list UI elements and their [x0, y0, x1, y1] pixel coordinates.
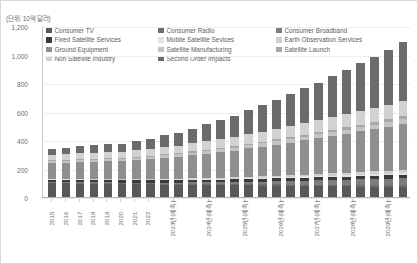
x-axis-tick-label: 2016	[62, 212, 69, 226]
y-axis-tick-label: 800	[0, 81, 28, 88]
stacked-bar[interactable]	[202, 124, 211, 197]
stacked-bar[interactable]	[314, 83, 323, 197]
x-axis-tick-label: 2022	[145, 212, 152, 226]
unit-label: (단위: 10억 달러)	[6, 13, 51, 23]
bar-segment	[188, 143, 197, 151]
stacked-bar[interactable]	[356, 63, 365, 197]
bar-segment	[314, 186, 323, 197]
bar-slot	[368, 26, 382, 197]
x-label-slot: 2019	[100, 199, 114, 261]
bar-segment	[216, 185, 225, 197]
bar-segment	[399, 187, 408, 197]
bar-slot	[115, 26, 129, 197]
x-axis-tick-label: 2015	[48, 212, 55, 226]
stacked-bar[interactable]	[132, 141, 141, 197]
x-label-slot: 2030년(예측)	[406, 199, 418, 261]
bar-segment	[272, 186, 281, 197]
bar-segment	[328, 136, 337, 173]
bar-group	[42, 26, 410, 197]
stacked-bar[interactable]	[188, 129, 197, 197]
stacked-bar[interactable]	[272, 100, 281, 197]
bar-segment	[48, 163, 57, 179]
stacked-bar[interactable]	[146, 139, 155, 197]
stacked-bar[interactable]	[160, 135, 169, 197]
stacked-bar[interactable]	[76, 146, 85, 197]
bar-segment	[399, 42, 408, 100]
bar-segment	[300, 140, 309, 174]
bar-segment	[202, 154, 211, 178]
x-axis-tick	[65, 199, 66, 202]
bar-segment	[258, 105, 267, 131]
bar-slot	[326, 26, 340, 197]
bar-segment	[202, 124, 211, 141]
bar-segment	[76, 162, 85, 179]
x-label-slot: 2027년(예측)	[299, 199, 335, 261]
bar-segment	[132, 184, 141, 197]
bar-segment	[202, 185, 211, 197]
bar-slot	[59, 26, 73, 197]
y-axis-tick-label: 400	[0, 138, 28, 145]
bar-slot	[354, 26, 368, 197]
stacked-bar[interactable]	[384, 50, 393, 197]
bar-slot	[143, 26, 157, 197]
stacked-bar[interactable]	[216, 120, 225, 197]
bar-segment	[342, 114, 351, 127]
stacked-bar[interactable]	[370, 57, 379, 197]
stacked-bar[interactable]	[62, 148, 71, 197]
bar-segment	[104, 144, 113, 152]
x-axis-tick	[79, 199, 80, 202]
bar-slot	[298, 26, 312, 197]
bar-slot	[45, 26, 59, 197]
y-axis-tick-label: 200	[0, 166, 28, 173]
bar-segment	[342, 186, 351, 197]
stacked-bar[interactable]	[230, 116, 239, 197]
bar-segment	[356, 187, 365, 197]
stacked-bar[interactable]	[104, 144, 113, 197]
bar-slot	[73, 26, 87, 197]
x-label-slot: 2025년(예측)	[227, 199, 263, 261]
bar-segment	[146, 149, 155, 156]
bar-slot	[241, 26, 255, 197]
bar-segment	[342, 134, 351, 173]
stacked-bar[interactable]	[342, 70, 351, 197]
stacked-bar[interactable]	[174, 133, 183, 197]
stacked-bar[interactable]	[48, 149, 57, 197]
stacked-bar[interactable]	[244, 110, 253, 197]
bar-slot	[185, 26, 199, 197]
stacked-bar[interactable]	[118, 144, 127, 197]
x-axis-tick-label: 2024년(예측)	[205, 201, 212, 237]
bar-slot	[199, 26, 213, 197]
bar-segment	[328, 76, 337, 117]
bar-segment	[272, 129, 281, 140]
stacked-bar[interactable]	[90, 145, 99, 197]
x-label-slot: 2016	[59, 199, 73, 261]
bar-slot	[157, 26, 171, 197]
plot-area: 02004006008001,0001,200	[42, 26, 410, 198]
stacked-bar[interactable]	[399, 42, 408, 197]
bar-segment	[90, 145, 99, 152]
x-axis-tick-label: 2017	[76, 212, 83, 226]
bar-segment	[399, 101, 408, 116]
bar-segment	[328, 117, 337, 130]
stacked-bar[interactable]	[328, 76, 337, 197]
x-label-slot: 2018	[86, 199, 100, 261]
bar-segment	[258, 132, 267, 142]
bar-segment	[399, 124, 408, 170]
bar-slot	[227, 26, 241, 197]
bar-segment	[328, 186, 337, 197]
bar-segment	[370, 129, 379, 171]
stacked-bar[interactable]	[286, 94, 295, 197]
bar-segment	[356, 131, 365, 172]
stacked-bar[interactable]	[258, 105, 267, 197]
bar-segment	[370, 57, 379, 108]
x-axis-tick	[148, 199, 149, 202]
stacked-bar[interactable]	[300, 88, 309, 197]
y-axis-tick-label: 0	[0, 195, 28, 202]
x-axis-tick	[134, 199, 135, 202]
x-axis-tick-label: 2026년(예측)	[277, 201, 284, 237]
bar-segment	[356, 63, 365, 111]
x-axis-tick-label: 2025년(예측)	[241, 201, 248, 237]
bar-segment	[230, 185, 239, 197]
x-axis-tick-label: 2021	[131, 212, 138, 226]
bar-segment	[90, 162, 99, 179]
